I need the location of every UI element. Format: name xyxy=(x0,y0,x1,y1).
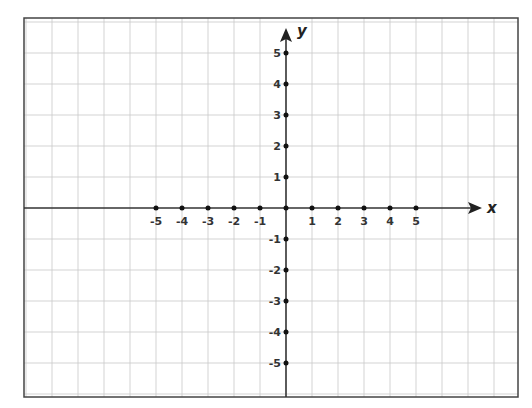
x-tick-label: -3 xyxy=(202,215,214,228)
y-tick-point xyxy=(284,144,289,149)
y-tick-point xyxy=(284,237,289,242)
y-tick-point xyxy=(284,268,289,273)
x-tick-label: -2 xyxy=(228,215,240,228)
y-tick-label: -4 xyxy=(269,326,282,339)
origin-point xyxy=(284,206,289,211)
x-tick-label: 4 xyxy=(386,215,394,228)
y-tick-label: 3 xyxy=(273,109,281,122)
y-tick-label: -1 xyxy=(269,233,281,246)
y-tick-point xyxy=(284,51,289,56)
y-tick-point xyxy=(284,299,289,304)
y-tick-label: -5 xyxy=(269,357,281,370)
x-tick-label: -1 xyxy=(254,215,266,228)
y-tick-label: -2 xyxy=(269,264,281,277)
y-tick-label: 1 xyxy=(273,171,281,184)
x-tick-point xyxy=(154,206,159,211)
x-axis-label: x xyxy=(486,199,498,217)
x-tick-point xyxy=(362,206,367,211)
y-tick-label: 4 xyxy=(273,78,281,91)
y-tick-label: 5 xyxy=(273,47,281,60)
x-tick-label: 2 xyxy=(334,215,342,228)
y-axis-label: y xyxy=(297,22,308,40)
x-tick-point xyxy=(336,206,341,211)
y-tick-point xyxy=(284,330,289,335)
x-tick-point xyxy=(180,206,185,211)
x-tick-label: 1 xyxy=(308,215,316,228)
x-tick-point xyxy=(206,206,211,211)
y-tick-point xyxy=(284,82,289,87)
coordinate-plane: x y -5-4-3-2-112345 54321-1-2-3-4-5 xyxy=(0,0,532,408)
x-tick-point xyxy=(414,206,419,211)
y-tick-point xyxy=(284,361,289,366)
y-tick-label: 2 xyxy=(273,140,281,153)
y-tick-point xyxy=(284,113,289,118)
x-tick-point xyxy=(258,206,263,211)
x-tick-point xyxy=(388,206,393,211)
x-tick-label: -5 xyxy=(150,215,162,228)
y-tick-point xyxy=(284,175,289,180)
x-tick-label: 5 xyxy=(412,215,420,228)
x-tick-label: -4 xyxy=(176,215,189,228)
x-tick-label: 3 xyxy=(360,215,368,228)
y-tick-label: -3 xyxy=(269,295,281,308)
x-tick-point xyxy=(310,206,315,211)
x-tick-point xyxy=(232,206,237,211)
